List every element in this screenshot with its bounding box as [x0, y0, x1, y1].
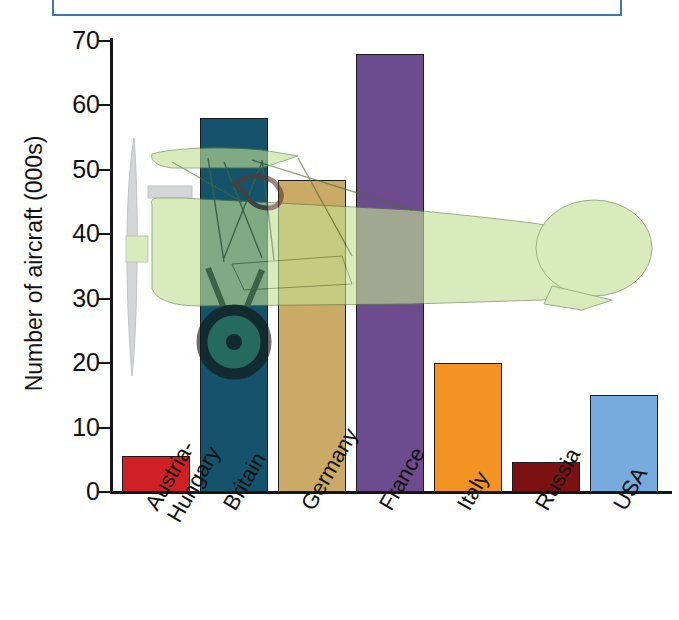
x-axis-tick-labels: Austria-HungaryBritainGermanyFranceItaly… — [0, 0, 679, 620]
x-axis-tick-label: Britain — [218, 448, 271, 515]
x-axis-tick-label: Italy — [452, 467, 494, 514]
x-axis-tick-label: USA — [608, 463, 652, 515]
bar-chart: 010203040506070 Number of aircraft (000s… — [0, 0, 679, 620]
x-axis-tick-label: France — [374, 443, 430, 515]
x-axis-tick-label: Russia — [530, 444, 585, 515]
x-axis-tick-label: Germany — [296, 424, 363, 515]
